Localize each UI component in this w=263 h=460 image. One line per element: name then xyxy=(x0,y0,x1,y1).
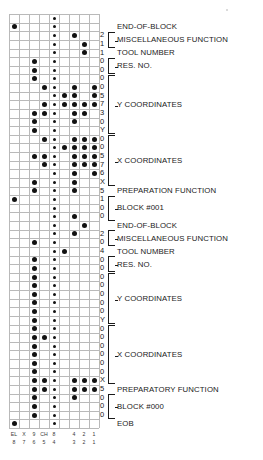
data-hole xyxy=(62,93,67,98)
sprocket-hole xyxy=(53,396,56,399)
data-hole xyxy=(92,85,97,90)
sprocket-hole xyxy=(53,189,56,192)
sprocket-hole xyxy=(53,181,56,184)
sprocket-hole xyxy=(53,388,56,391)
data-hole xyxy=(32,266,37,271)
sprocket-hole xyxy=(53,34,56,37)
sprocket-hole xyxy=(53,362,56,365)
data-hole xyxy=(92,171,97,176)
data-hole xyxy=(72,395,77,400)
sprocket-hole xyxy=(53,336,56,339)
data-hole xyxy=(82,162,87,167)
annotation-label: EOB xyxy=(117,419,134,428)
annotation-label: RES. NO. xyxy=(117,61,152,70)
data-hole xyxy=(32,300,37,305)
sprocket-hole xyxy=(53,120,56,123)
data-hole xyxy=(42,154,47,159)
curly-brace xyxy=(108,196,115,221)
sprocket-hole xyxy=(53,310,56,313)
annotation-label: PREPARATORY FUNCTION xyxy=(117,385,219,394)
annotation-labels: END-OF-BLOCKMISCELLANEOUS FUNCTIONTOOL N… xyxy=(117,14,263,428)
data-hole xyxy=(92,162,97,167)
sprocket-hole xyxy=(53,138,56,141)
annotation-label: BLOCK #001 xyxy=(117,203,164,212)
sprocket-hole xyxy=(53,414,56,417)
data-hole xyxy=(32,111,37,116)
data-hole xyxy=(72,214,77,219)
data-hole xyxy=(32,344,37,349)
data-hole xyxy=(12,24,17,29)
sprocket-hole xyxy=(53,86,56,89)
data-hole xyxy=(32,283,37,288)
data-hole xyxy=(72,145,77,150)
curly-brace xyxy=(108,135,115,186)
data-hole xyxy=(72,378,77,383)
data-hole xyxy=(92,102,97,107)
sprocket-hole xyxy=(53,379,56,382)
curly-brace xyxy=(108,273,115,324)
data-hole xyxy=(92,93,97,98)
annotation-label: END-OF-BLOCK xyxy=(117,22,177,31)
curly-brace xyxy=(108,230,115,246)
sprocket-hole xyxy=(53,345,56,348)
data-hole xyxy=(32,395,37,400)
data-hole xyxy=(92,387,97,392)
curly-brace xyxy=(108,256,115,272)
data-hole xyxy=(82,50,87,55)
data-hole xyxy=(42,111,47,116)
data-hole xyxy=(72,188,77,193)
sprocket-hole xyxy=(53,224,56,227)
sprocket-hole xyxy=(53,293,56,296)
channel-name-label: 8 xyxy=(48,431,60,437)
sprocket-hole xyxy=(53,172,56,175)
annotation-label: BLOCK #000 xyxy=(117,402,164,411)
grid-line-horizontal xyxy=(9,428,99,429)
image-speck xyxy=(226,9,228,11)
data-hole xyxy=(32,59,37,64)
data-hole xyxy=(82,154,87,159)
data-hole xyxy=(82,137,87,142)
data-hole xyxy=(32,378,37,383)
data-hole xyxy=(62,102,67,107)
data-hole xyxy=(82,223,87,228)
data-hole xyxy=(72,154,77,159)
curly-brace xyxy=(108,394,115,419)
sprocket-hole xyxy=(53,370,56,373)
data-hole xyxy=(82,387,87,392)
data-hole xyxy=(32,387,37,392)
data-hole xyxy=(92,378,97,383)
tape-grid xyxy=(9,14,99,428)
sprocket-hole xyxy=(53,284,56,287)
curly-brace xyxy=(108,325,115,385)
data-hole xyxy=(32,352,37,357)
data-hole xyxy=(72,171,77,176)
data-hole xyxy=(42,387,47,392)
data-hole xyxy=(72,93,77,98)
sprocket-hole xyxy=(53,17,56,20)
data-hole xyxy=(32,292,37,297)
data-hole xyxy=(32,76,37,81)
sprocket-hole xyxy=(53,25,56,28)
data-hole xyxy=(72,180,77,185)
sprocket-hole xyxy=(53,198,56,201)
data-hole xyxy=(32,335,37,340)
data-hole xyxy=(32,240,37,245)
data-hole xyxy=(62,145,67,150)
data-hole xyxy=(32,275,37,280)
annotation-label: END-OF-BLOCK xyxy=(117,221,177,230)
sprocket-hole xyxy=(53,353,56,356)
annotation-braces xyxy=(108,14,117,428)
data-hole xyxy=(32,369,37,374)
data-hole xyxy=(42,162,47,167)
punched-tape-diagram: 21100005730Y00576X51002040000000Y000000X… xyxy=(0,0,263,460)
sprocket-hole xyxy=(53,43,56,46)
data-hole xyxy=(32,128,37,133)
curly-brace xyxy=(108,75,115,135)
data-hole xyxy=(42,137,47,142)
data-hole xyxy=(82,378,87,383)
data-hole xyxy=(72,111,77,116)
annotation-label: Y COORDINATES xyxy=(117,294,182,303)
sprocket-hole xyxy=(53,129,56,132)
data-hole xyxy=(32,413,37,418)
data-hole xyxy=(72,119,77,124)
